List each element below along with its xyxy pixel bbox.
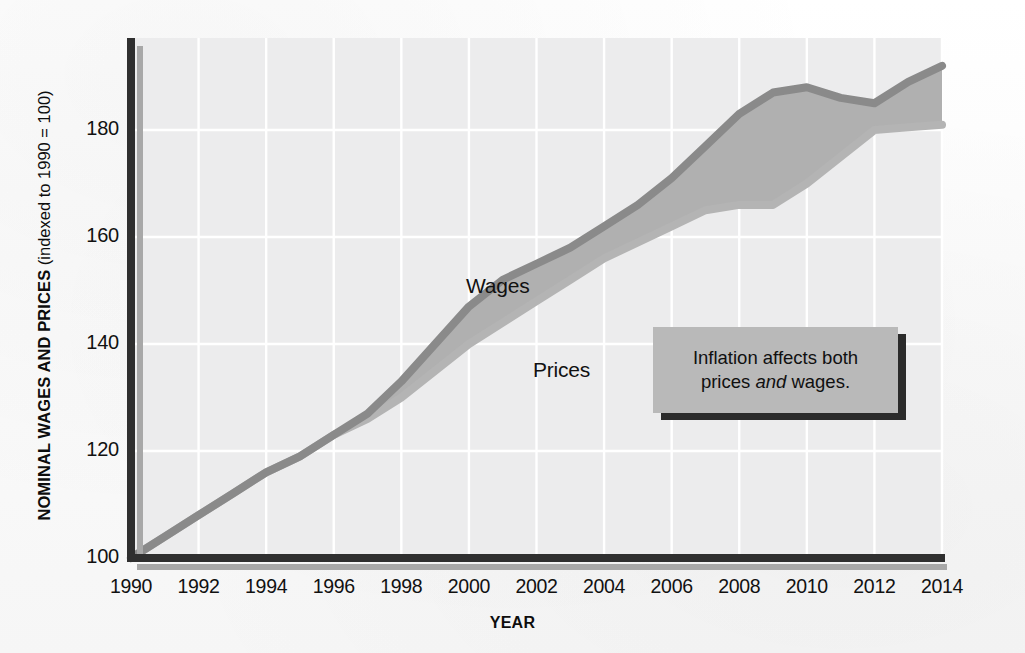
callout-line-2-pre: prices xyxy=(701,371,756,392)
y-tick-140: 140 xyxy=(55,331,119,354)
y-tick-100: 100 xyxy=(55,545,119,568)
callout-line-1: Inflation affects both xyxy=(693,347,858,368)
y-tick-180: 180 xyxy=(55,117,119,140)
y-tick-120: 120 xyxy=(55,438,119,461)
x-axis-title: YEAR xyxy=(0,614,1025,632)
x-axis-spine xyxy=(127,554,945,562)
chart-figure: NOMINAL WAGES AND PRICES (indexed to 199… xyxy=(0,0,1025,653)
callout-line-2-post: wages. xyxy=(786,371,850,392)
y-axis-spine xyxy=(127,38,135,562)
y-axis-shadow xyxy=(137,46,143,562)
y-tick-160: 160 xyxy=(55,224,119,247)
x-axis-shadow xyxy=(137,564,947,570)
x-tick-2014: 2014 xyxy=(902,575,982,598)
callout-emphasis: and xyxy=(755,371,786,392)
callout-box: Inflation affects both prices and wages. xyxy=(653,327,898,413)
